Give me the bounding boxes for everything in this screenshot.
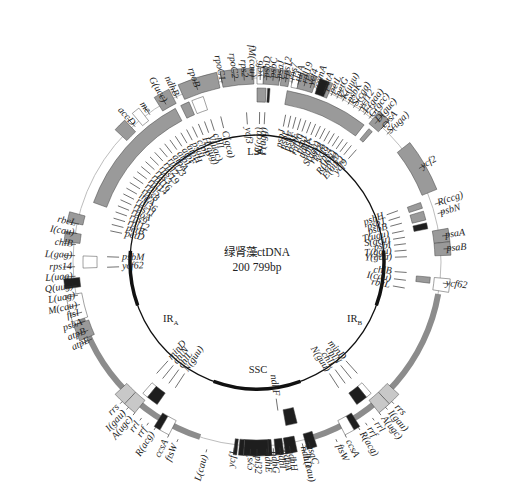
gene-block — [397, 143, 437, 196]
svg-text:psaB: psaB — [445, 241, 467, 253]
gene-block — [267, 88, 270, 102]
gene-block — [413, 223, 428, 232]
gene-block — [360, 129, 372, 142]
region-ira: IRA — [163, 313, 179, 327]
gene-label: psaA — [442, 226, 466, 240]
gene-block — [181, 102, 195, 118]
gene-label: L(gag) — [44, 248, 75, 261]
gene-block — [83, 256, 97, 268]
gene-block — [257, 88, 266, 102]
svg-text:Y(gua): Y(gua) — [364, 251, 392, 264]
gene-block — [192, 97, 208, 114]
region-boundary-arc — [214, 381, 301, 389]
svg-text:rps14: rps14 — [49, 260, 72, 272]
genome-size: 200 799bp — [233, 261, 282, 274]
svg-text:psaA: psaA — [443, 226, 466, 240]
genome-map: accDmeG(ucc)ndhBrpoBrpoC1rpoC2rps2fM(cau… — [0, 0, 513, 504]
region-lsc: LSC — [247, 146, 266, 157]
svg-text:ycf62: ycf62 — [121, 259, 144, 271]
gene-label: rpl32 — [253, 449, 264, 474]
genome-title: 绿肾藻ctDNA — [224, 245, 291, 258]
gene-block — [283, 408, 297, 426]
gene-block — [93, 108, 181, 207]
gene-label: L(cau) — [192, 449, 211, 483]
svg-text:chlB: chlB — [54, 236, 73, 249]
gene-label: ndhF — [269, 374, 283, 411]
svg-text:ndhF: ndhF — [269, 374, 283, 397]
gene-block — [416, 276, 431, 283]
gene-label: psaB — [444, 241, 467, 253]
svg-text:L(gag): L(gag) — [44, 248, 73, 261]
gene-label: ycf62 — [107, 259, 144, 271]
region-irb: IRB — [347, 313, 363, 327]
gene-label: Y(gua) — [364, 251, 406, 264]
gene-label: chlB — [54, 236, 76, 249]
gene-label: rbcL — [371, 276, 405, 290]
region-ssc: SSC — [249, 364, 268, 375]
gene-label: rps14 — [49, 260, 75, 272]
svg-text:ycf1: ycf1 — [225, 450, 238, 469]
svg-text:rbcL: rbcL — [371, 276, 392, 290]
svg-text:L(cau): L(cau) — [192, 453, 211, 483]
gene-block — [407, 202, 422, 212]
gene-label: petD — [110, 227, 146, 242]
svg-text:rpl32: rpl32 — [253, 452, 264, 474]
gene-block — [410, 211, 426, 223]
